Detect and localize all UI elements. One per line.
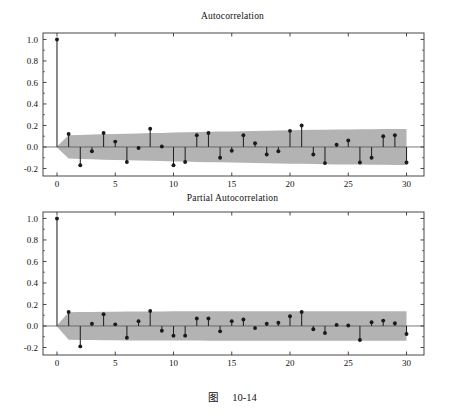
stem-marker [311, 327, 315, 331]
stem-marker [300, 310, 304, 314]
chart-title-autocorrelation: Autocorrelation [0, 11, 465, 21]
stem-marker [125, 336, 129, 340]
stem-marker [393, 133, 397, 137]
x-tick-label: 10 [169, 179, 179, 189]
stem-marker [78, 344, 82, 348]
stem-marker [90, 322, 94, 326]
x-tick-label: 30 [402, 358, 412, 368]
stem-marker [335, 323, 339, 327]
autocorrelation-chart-block: Autocorrelation -0.20.00.20.40.60.81.005… [0, 0, 465, 195]
stem-marker [218, 156, 222, 160]
stem-marker [393, 321, 397, 325]
stem-marker [300, 124, 304, 128]
y-tick-label: -0.2 [24, 164, 38, 174]
x-tick-label: 20 [286, 358, 296, 368]
y-tick-label: 0.0 [27, 321, 39, 331]
y-tick-label: 0.4 [27, 99, 39, 109]
stem-marker [253, 141, 257, 145]
stem-marker [195, 133, 199, 137]
stem-marker [311, 153, 315, 157]
stem-marker [381, 319, 385, 323]
stem-marker [67, 310, 71, 314]
x-tick-label: 15 [227, 358, 237, 368]
stem-marker [55, 217, 59, 221]
y-tick-label: 0.6 [27, 78, 39, 88]
stem-marker [67, 132, 71, 136]
figure-caption: 图10-14 [0, 389, 465, 404]
stem-marker [288, 129, 292, 133]
stem-marker [148, 309, 152, 313]
y-tick-label: 0.2 [27, 300, 38, 310]
stem-marker [241, 318, 245, 322]
stem-marker [102, 131, 106, 135]
stem-marker [381, 134, 385, 138]
x-tick-label: 10 [169, 358, 179, 368]
figure-caption-label: 图 [208, 392, 218, 403]
stem-marker [206, 131, 210, 135]
x-tick-label: 25 [344, 358, 354, 368]
stem-marker [323, 161, 327, 165]
stem-marker [370, 156, 374, 160]
stem-marker [137, 146, 141, 150]
y-tick-label: 0.0 [27, 142, 39, 152]
stem-marker [230, 319, 234, 323]
stem-marker [405, 161, 409, 165]
y-tick-label: -0.2 [24, 343, 38, 353]
x-tick-label: 30 [402, 179, 412, 189]
partial-autocorrelation-plot: -0.20.00.20.40.60.81.0051015202530 [0, 190, 465, 380]
stem-marker [172, 334, 176, 338]
stem-marker [218, 329, 222, 333]
stem-marker [78, 163, 82, 167]
stem-marker [230, 149, 234, 153]
x-tick-label: 20 [286, 179, 296, 189]
figure-caption-number: 10-14 [232, 392, 257, 403]
stem-marker [335, 143, 339, 147]
stem-marker [288, 314, 292, 318]
stem-marker [276, 149, 280, 153]
stem-marker [405, 332, 409, 336]
stem-marker [358, 338, 362, 342]
partial-autocorrelation-chart-block: Partial Autocorrelation -0.20.00.20.40.6… [0, 190, 465, 380]
y-tick-label: 0.2 [27, 121, 38, 131]
x-tick-label: 15 [227, 179, 237, 189]
stem-marker [172, 163, 176, 167]
stem-marker [358, 161, 362, 165]
stem-marker [346, 323, 350, 327]
x-tick-label: 0 [55, 358, 60, 368]
stem-marker [370, 320, 374, 324]
stem-marker [125, 160, 129, 164]
x-tick-label: 0 [55, 179, 60, 189]
chart-title-partial-autocorrelation: Partial Autocorrelation [0, 193, 465, 203]
x-tick-label: 25 [344, 179, 354, 189]
stem-marker [195, 316, 199, 320]
stem-marker [265, 322, 269, 326]
y-tick-label: 0.8 [27, 56, 39, 66]
y-tick-label: 0.6 [27, 257, 39, 267]
stem-marker [206, 316, 210, 320]
y-tick-label: 1.0 [27, 35, 39, 45]
y-tick-label: 0.4 [27, 278, 39, 288]
stem-marker [148, 127, 152, 131]
stem-marker [113, 322, 117, 326]
stem-marker [265, 153, 269, 157]
stem-marker [90, 149, 94, 153]
autocorrelation-plot: -0.20.00.20.40.60.81.0051015202530 [0, 0, 465, 195]
x-tick-label: 5 [113, 179, 118, 189]
stem-marker [241, 133, 245, 137]
y-tick-label: 1.0 [27, 214, 39, 224]
stem-marker [55, 38, 59, 42]
stem-marker [276, 321, 280, 325]
stem-marker [323, 331, 327, 335]
y-tick-label: 0.8 [27, 235, 39, 245]
stem-marker [137, 319, 141, 323]
stem-marker [102, 312, 106, 316]
figure-page: Autocorrelation -0.20.00.20.40.60.81.005… [0, 0, 465, 416]
stem-marker [183, 160, 187, 164]
stem-marker [160, 329, 164, 333]
stem-marker [346, 139, 350, 143]
stem-marker [253, 326, 257, 330]
stem-marker [183, 334, 187, 338]
stem-marker [113, 140, 117, 144]
x-tick-label: 5 [113, 358, 118, 368]
stem-marker [160, 144, 164, 148]
